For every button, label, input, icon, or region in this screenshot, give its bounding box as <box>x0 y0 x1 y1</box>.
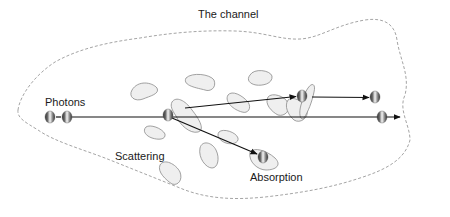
label-photons: Photons <box>45 96 85 108</box>
label-scattering: Scattering <box>115 150 165 162</box>
diagram-title: The channel <box>198 8 259 20</box>
scatterer <box>171 99 201 132</box>
photon-scattered-2 <box>370 91 380 103</box>
photon-incoming-2 <box>62 111 72 123</box>
scatterer <box>131 83 158 100</box>
scatterer <box>159 162 180 184</box>
scatterer <box>144 126 165 139</box>
scatterer <box>200 143 218 168</box>
photon-scattered-1 <box>297 90 307 102</box>
photon-paths <box>56 97 400 155</box>
photon-transmitted <box>377 111 387 123</box>
channel-diagram <box>0 0 450 217</box>
label-absorption: Absorption <box>250 171 303 183</box>
scatterers <box>131 71 363 185</box>
photon-scattering-event <box>163 109 173 121</box>
photon-absorbed <box>258 151 268 163</box>
photon-incoming-1 <box>45 111 55 123</box>
scatterer <box>185 74 214 90</box>
scattered-beam-continue <box>312 97 369 98</box>
scatterer <box>248 71 272 86</box>
